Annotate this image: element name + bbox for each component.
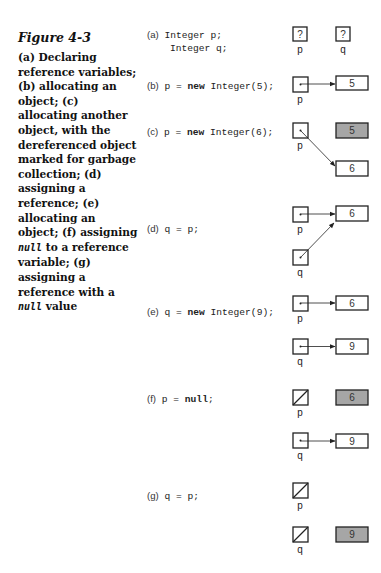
svg-text:p: p [297,95,303,106]
svg-text:9: 9 [349,529,355,540]
svg-text:q: q [297,357,303,368]
svg-text:5: 5 [349,78,355,89]
unknown-value: ? [340,29,346,40]
svg-text:6: 6 [349,163,355,174]
svg-text:p: p [297,501,303,512]
svg-text:q: q [297,268,303,279]
svg-text:p: p [297,141,303,152]
svg-text:5: 5 [349,125,355,136]
svg-text:9: 9 [349,436,355,447]
svg-text:p: p [297,45,303,56]
svg-text:q: q [297,451,303,462]
svg-text:9: 9 [349,341,355,352]
svg-text:q: q [340,45,346,56]
svg-text:p: p [297,225,303,236]
unknown-value: ? [297,29,303,40]
svg-text:p: p [297,408,303,419]
svg-text:q: q [297,545,303,556]
svg-text:6: 6 [349,392,355,403]
reference-diagram: ? ? 5 5 6 6 6 9 6 9 9 p q p p p q p q p … [0,0,381,573]
svg-text:6: 6 [349,208,355,219]
svg-text:6: 6 [349,298,355,309]
svg-text:p: p [297,314,303,325]
